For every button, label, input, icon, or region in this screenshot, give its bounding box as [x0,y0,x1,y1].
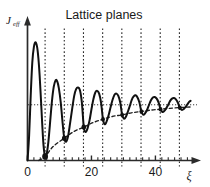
lattice-planes-chart: Lattice planes J eff ξ 02040 [0,0,210,187]
y-axis-label-sub: eff [13,20,21,27]
minimum-marker-6 [139,109,143,113]
minimum-marker-1 [42,153,48,160]
minimum-marker-2 [62,136,67,141]
y-axis-label-main: J [6,14,12,26]
x-axis-label: ξ [186,169,192,183]
x-tick-label-40: 40 [149,165,163,179]
y-axis-label: J eff [6,14,21,27]
x-axis-arrowhead [192,157,202,164]
minimum-marker-5 [120,113,124,117]
x-axis-tick-labels: 02040 [24,165,162,179]
minimum-marker-7 [159,107,163,111]
chart-title: Lattice planes [65,8,142,22]
x-tick-label-20: 20 [85,165,99,179]
minimum-marker-8 [178,105,182,109]
x-tick-label-0: 0 [24,165,31,179]
axes [24,16,201,164]
main-curve [28,42,191,160]
figure-container: Lattice planes J eff ξ 02040 [0,0,210,187]
minimum-marker-3 [81,124,86,129]
minimum-marker-4 [101,117,105,121]
lattice-plane-lines [45,29,179,167]
y-axis-arrowhead [24,16,31,26]
